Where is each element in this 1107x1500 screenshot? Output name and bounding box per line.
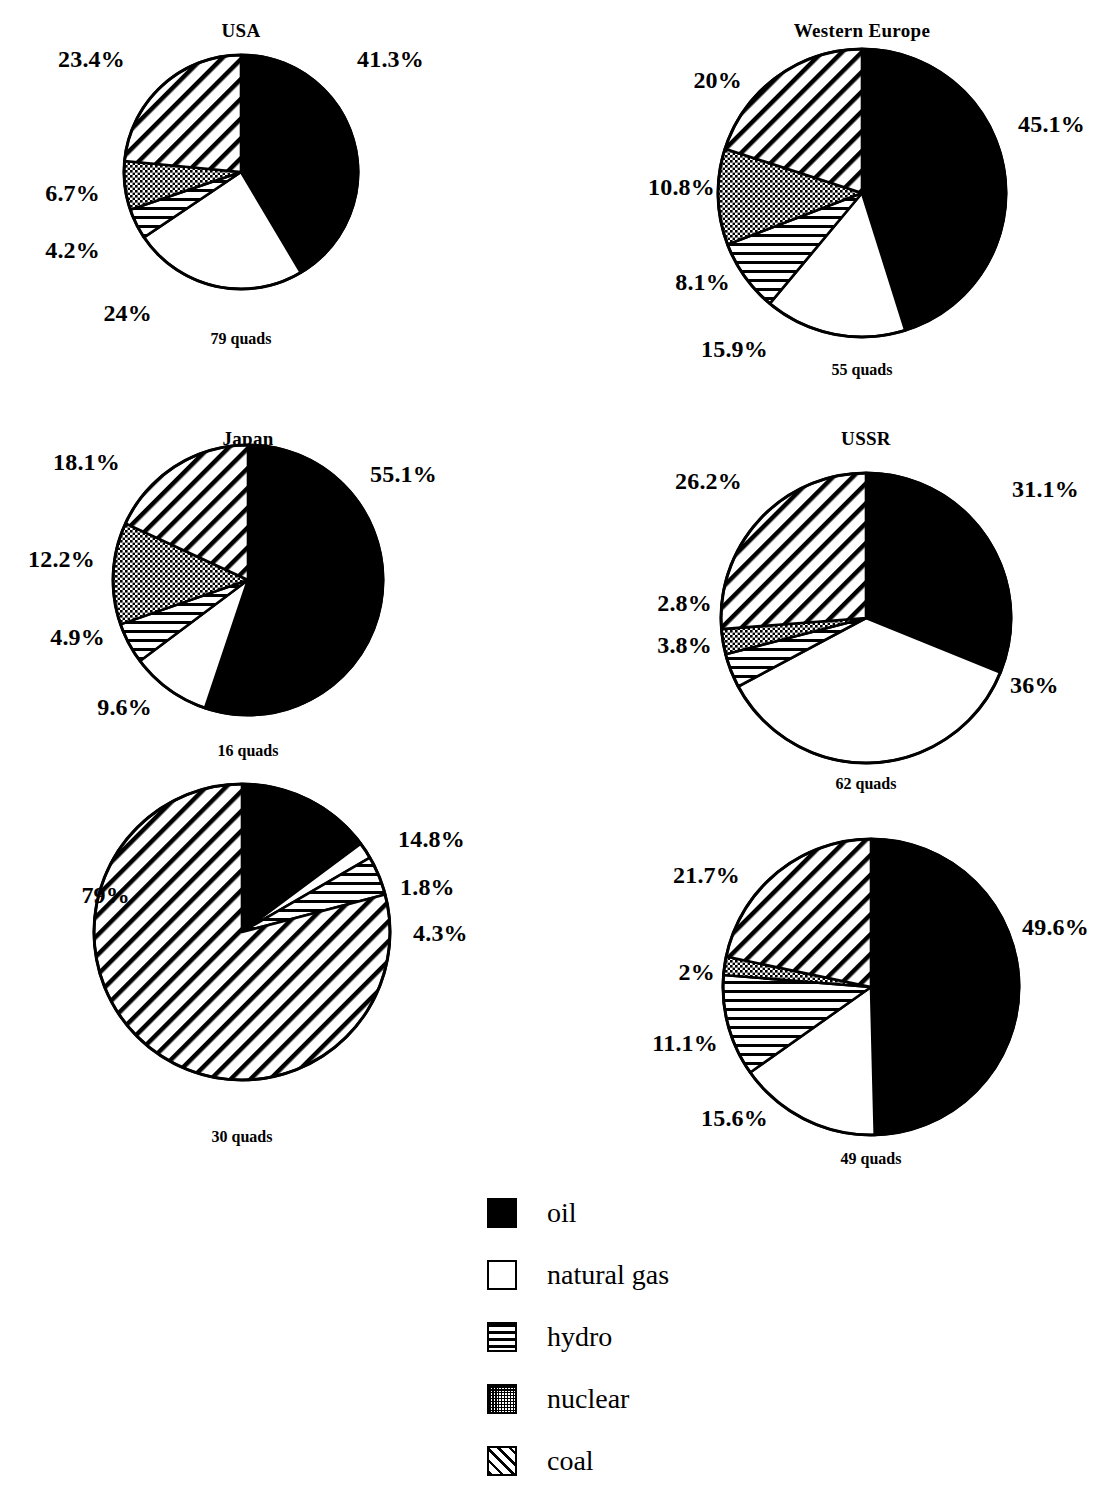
legend-label-hydro: hydro: [547, 1323, 612, 1351]
legend-label-natural-gas: natural gas: [547, 1261, 669, 1289]
pie-pct-label-ldcs-oil: 49.6%: [1022, 914, 1089, 941]
legend-item-oil: oil: [487, 1182, 669, 1244]
pie-pct-label-ldcs-natural-gas: 15.6%: [0, 1105, 768, 1132]
legend-item-nuclear: nuclear: [487, 1368, 669, 1430]
pie-pct-label-ldcs-nuclear: 2%: [0, 959, 715, 986]
legend-label-nuclear: nuclear: [547, 1385, 629, 1413]
pie-slice-ldcs-hydro: [723, 975, 871, 1073]
pie-outline-ldcs: [723, 839, 1019, 1135]
legend-label-oil: oil: [547, 1199, 577, 1227]
chart-legend: oilnatural gashydronuclearcoal: [487, 1182, 669, 1492]
pie-title-ldcs: LDCs: [847, 840, 896, 862]
pie-slice-ldcs-nuclear: [723, 957, 871, 987]
pie-slice-ldcs-natural-gas: [750, 987, 875, 1135]
legend-swatch-hydro-icon: [487, 1322, 517, 1352]
legend-swatch-coal-icon: [487, 1446, 517, 1476]
legend-swatch-nuclear-icon: [487, 1384, 517, 1414]
legend-item-natural-gas: natural gas: [487, 1244, 669, 1306]
legend-item-hydro: hydro: [487, 1306, 669, 1368]
pie-pct-label-ldcs-hydro: 11.1%: [0, 1030, 718, 1057]
legend-swatch-natural-gas-icon: [487, 1260, 517, 1290]
pie-total-label-ldcs: 49 quads: [841, 1150, 902, 1168]
legend-label-coal: coal: [547, 1447, 594, 1475]
legend-item-coal: coal: [487, 1430, 669, 1492]
pie-pct-label-ldcs-coal: 21.7%: [0, 862, 740, 889]
legend-swatch-oil-icon: [487, 1198, 517, 1228]
pie-slice-ldcs-oil: [871, 839, 1019, 1135]
